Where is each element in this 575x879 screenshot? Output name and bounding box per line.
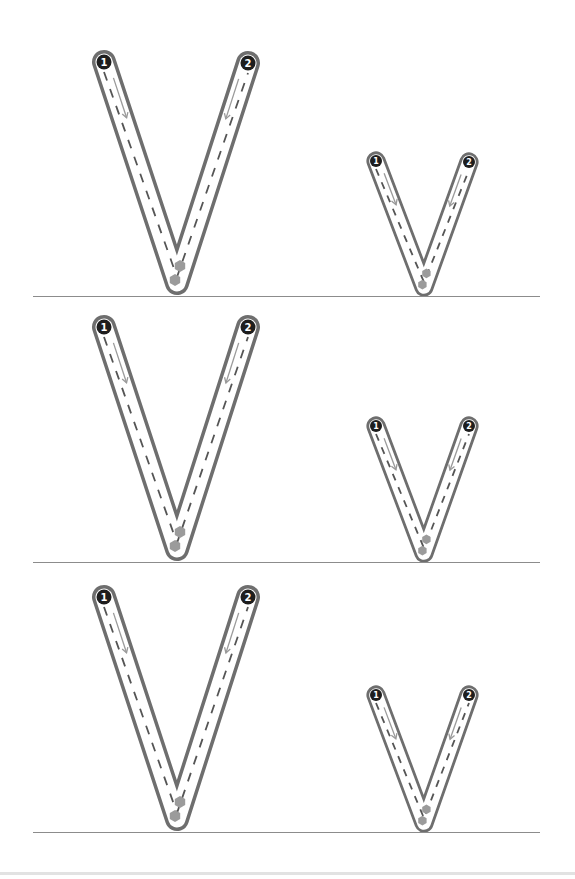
start-point-2-icon: 2	[241, 590, 256, 605]
svg-text:1: 1	[373, 157, 379, 166]
start-point-1-icon: 1	[97, 320, 112, 335]
start-point-1-icon: 1	[370, 155, 382, 167]
uppercase-v-row-1: 12	[97, 55, 256, 287]
start-point-2-icon: 2	[241, 56, 256, 71]
svg-text:1: 1	[101, 57, 108, 68]
start-point-2-icon: 2	[463, 689, 475, 701]
baseline-row-3	[33, 832, 540, 833]
svg-text:1: 1	[101, 322, 108, 333]
tracing-worksheet: 121212121212	[0, 0, 575, 879]
uppercase-v-row-2: 12	[97, 320, 256, 553]
svg-text:1: 1	[101, 592, 108, 603]
svg-text:2: 2	[466, 691, 472, 700]
start-point-2-icon: 2	[241, 320, 256, 335]
svg-text:2: 2	[245, 592, 252, 603]
svg-text:2: 2	[466, 422, 472, 431]
start-point-1-icon: 1	[370, 689, 382, 701]
svg-text:1: 1	[373, 422, 379, 431]
start-point-2-icon: 2	[463, 156, 475, 168]
start-point-1-icon: 1	[97, 590, 112, 605]
svg-text:2: 2	[466, 158, 472, 167]
uppercase-v-row-3: 12	[97, 590, 256, 823]
svg-text:2: 2	[245, 58, 252, 69]
baseline-row-1	[33, 296, 540, 297]
svg-text:1: 1	[373, 691, 379, 700]
start-point-1-icon: 1	[370, 420, 382, 432]
lowercase-v-row-3: 12	[370, 689, 475, 825]
letter-tracing-canvas: 121212121212	[0, 0, 575, 879]
baseline-row-2	[33, 562, 540, 563]
lowercase-v-row-1: 12	[370, 155, 475, 289]
svg-text:2: 2	[245, 322, 252, 333]
start-point-2-icon: 2	[463, 420, 475, 432]
start-point-1-icon: 1	[97, 55, 112, 70]
lowercase-v-row-2: 12	[370, 420, 475, 555]
page-bottom-divider	[0, 872, 575, 875]
